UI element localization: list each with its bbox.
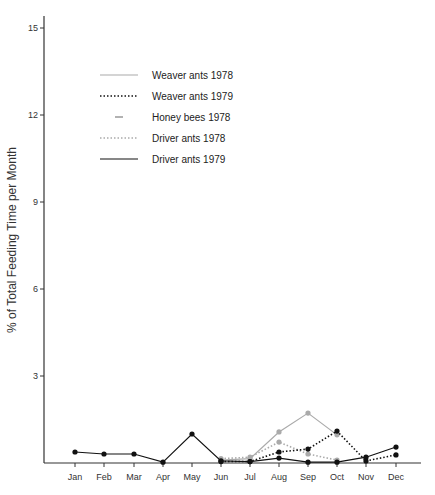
- data-point: [276, 429, 281, 434]
- feeding-time-chart: 3 6 9 12 15 % of Total Feeding Time per …: [0, 0, 435, 495]
- data-point: [305, 451, 310, 456]
- data-point: [363, 455, 368, 460]
- x-tick-label: Oct: [330, 472, 345, 482]
- data-point: [305, 411, 310, 416]
- legend-label: Weaver ants 1978: [152, 70, 233, 81]
- y-tick-label: 6: [33, 284, 38, 294]
- data-point: [218, 458, 223, 463]
- x-tick-label: Sep: [300, 472, 316, 482]
- data-point: [101, 451, 106, 456]
- data-point: [276, 455, 281, 460]
- data-point: [393, 452, 398, 457]
- y-tick-label: 15: [28, 23, 38, 33]
- y-tick-label: 3: [33, 371, 38, 381]
- data-point: [247, 459, 252, 464]
- data-point: [189, 431, 194, 436]
- data-point: [160, 460, 165, 465]
- legend: Weaver ants 1978 Weaver ants 1979 Honey …: [100, 70, 233, 165]
- x-tick-label: Nov: [358, 472, 375, 482]
- data-point: [305, 446, 310, 451]
- y-tick-label: 9: [33, 197, 38, 207]
- legend-label: Honey bees 1978: [152, 112, 231, 123]
- data-point: [72, 449, 77, 454]
- x-tick-label: Dec: [388, 472, 405, 482]
- data-point: [131, 451, 136, 456]
- x-tick-label: Jan: [68, 472, 83, 482]
- x-tick-label: May: [183, 472, 201, 482]
- y-tick-label: 12: [28, 110, 38, 120]
- data-point: [334, 429, 339, 434]
- series-line: [221, 431, 396, 461]
- y-ticks: 3 6 9 12 15: [28, 23, 44, 381]
- data-point: [334, 460, 339, 465]
- x-tick-label: Mar: [126, 472, 142, 482]
- legend-label: Driver ants 1978: [152, 133, 226, 144]
- y-axis-label: % of Total Feeding Time per Month: [5, 147, 19, 333]
- data-point: [276, 449, 281, 454]
- legend-label: Weaver ants 1979: [152, 91, 233, 102]
- data-point: [276, 440, 281, 445]
- legend-label: Driver ants 1979: [152, 154, 226, 165]
- x-ticks: Jan Feb Mar Apr May Jun Jul Aug Sep Oct …: [68, 463, 405, 482]
- series-layer: [72, 411, 398, 465]
- data-point: [305, 460, 310, 465]
- x-tick-label: Jul: [244, 472, 256, 482]
- x-tick-label: Aug: [271, 472, 287, 482]
- x-tick-label: Apr: [156, 472, 170, 482]
- x-tick-label: Jun: [214, 472, 229, 482]
- data-point: [393, 444, 398, 449]
- x-tick-label: Feb: [96, 472, 112, 482]
